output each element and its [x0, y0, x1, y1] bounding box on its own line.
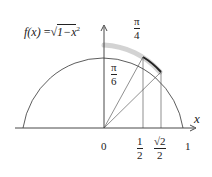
radius-pi-6	[104, 57, 143, 128]
tick-one-label: 1	[185, 140, 191, 152]
bold-arc-segment	[143, 57, 161, 72]
angle-pi-6-label: π6	[111, 62, 117, 87]
function-label: f(x) =√1−x2	[24, 25, 80, 40]
tick-sqrt2-half-label: √22	[154, 136, 166, 161]
angle-pi-4-label: π4	[134, 16, 140, 41]
x-axis-label: x	[194, 111, 200, 127]
tick-half-label: 12	[137, 136, 143, 161]
origin-label: 0	[101, 140, 107, 152]
